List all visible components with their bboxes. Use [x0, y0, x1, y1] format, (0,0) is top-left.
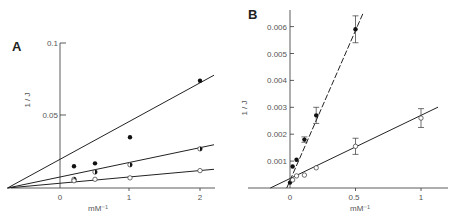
chart-b: B 0.0010.0020.0030.0040.0050.006 0.5 0 1… [240, 7, 448, 213]
x-tick-label: 0.5 [348, 193, 360, 202]
y-tick-label: 0.1 [47, 39, 59, 48]
panel-label-a: A [12, 39, 22, 54]
data-point-open [294, 174, 298, 178]
x-axis-label-b: mM⁻¹ [350, 204, 370, 213]
data-point-open [128, 176, 132, 180]
fit-line [8, 169, 215, 188]
data-point-filled [72, 164, 76, 168]
x-tick-label: 2 [198, 193, 203, 202]
y-tick-label: 0.05 [42, 111, 58, 120]
data-point-open [314, 166, 318, 170]
panel-label-b: B [248, 7, 257, 22]
chart-a: A 0.1 0.05 0 1 2 mM⁻¹ 1 / J [8, 39, 216, 213]
data-point-filled [93, 161, 97, 165]
y-tick-label: 0.005 [267, 50, 288, 59]
x-axis-label-a: mM⁻¹ [88, 204, 108, 213]
data-point-open [290, 178, 294, 182]
fit-line [8, 75, 215, 188]
data-point-open [353, 144, 357, 148]
x-tick-label: 0 [288, 193, 293, 202]
fit-line [8, 145, 215, 188]
data-point-open [93, 177, 97, 181]
y-axis-label-b: 1 / J [240, 100, 249, 115]
y-axis-label-a: 1 / J [23, 92, 32, 107]
data-point-open [302, 173, 306, 177]
y-tick-label: 0.004 [267, 76, 288, 85]
y-tick-label: 0.002 [267, 130, 288, 139]
data-point-open [198, 168, 202, 172]
figure: A 0.1 0.05 0 1 2 mM⁻¹ 1 / J B 0.0010.002… [0, 0, 455, 223]
data-point-filled [294, 158, 298, 162]
x-tick-label: 1 [419, 193, 424, 202]
data-point-filled [198, 79, 202, 83]
y-tick-label: 0.003 [267, 103, 288, 112]
x-tick-label: 0 [58, 193, 63, 202]
y-tick-label: 0.001 [267, 157, 288, 166]
data-point-filled [290, 164, 294, 168]
y-tick-label: 0.006 [267, 23, 288, 32]
data-point-filled [128, 135, 132, 139]
data-point-filled [353, 27, 357, 31]
data-point-open [72, 179, 76, 183]
data-point-filled [314, 113, 318, 117]
data-point-filled [302, 137, 306, 141]
x-tick-label: 1 [127, 193, 132, 202]
data-point-open [419, 116, 423, 120]
